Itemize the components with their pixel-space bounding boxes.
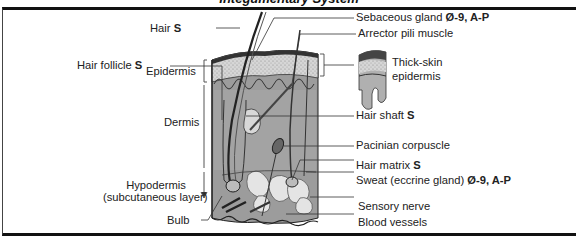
label-sensory-nerve: Sensory nerve (358, 200, 430, 213)
label-bulb: Bulb (167, 214, 189, 227)
label-hair-follicle: Hair follicle S (77, 59, 142, 72)
label-hair: Hair S (150, 22, 181, 35)
skin-cross-section-illustration (0, 0, 578, 239)
skin-block (212, 12, 318, 226)
layer-brackets (201, 60, 207, 198)
label-hair-matrix: Hair matrix S (356, 159, 421, 172)
label-sebaceous-gland: Sebaceous gland Ø-9, A-P (356, 11, 489, 24)
label-arrector-pili-muscle: Arrector pili muscle (358, 27, 453, 40)
label-blood-vessels: Blood vessels (358, 216, 427, 229)
label-thick-skin: Thick-skin (392, 56, 442, 69)
label-dermis: Dermis (164, 116, 199, 129)
label-pacinian-corpuscle: Pacinian corpuscle (356, 139, 450, 152)
label-epidermis: Epidermis (146, 65, 196, 78)
thick-skin-inset (359, 51, 386, 110)
label-subcutaneous-layer: (subcutaneous layer) (103, 191, 203, 204)
label-hair-shaft: Hair shaft S (356, 109, 414, 122)
label-thick-skin-epidermis: epidermis (392, 70, 441, 83)
label-sweat-gland: Sweat (eccrine gland) Ø-9, A-P (356, 174, 511, 187)
